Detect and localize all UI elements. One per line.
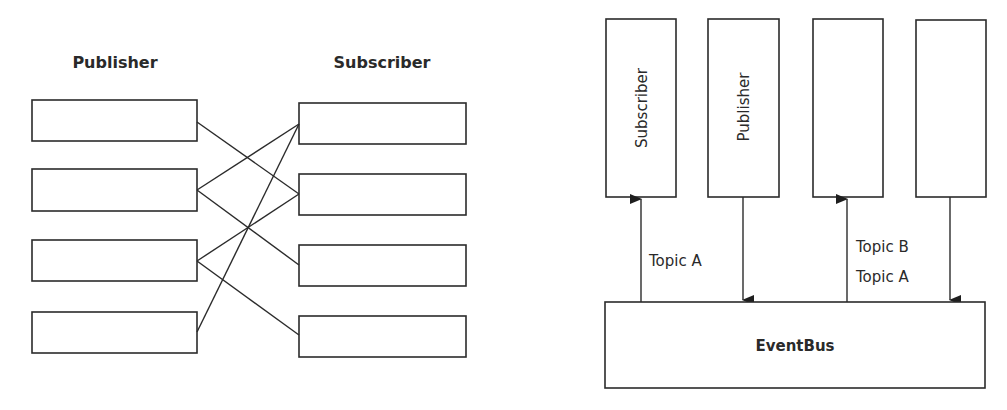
publisher-heading: Publisher [72,53,157,72]
publisher-column-label: Publisher [735,72,753,142]
publisher-box-1 [32,100,197,141]
publisher-box-2 [32,169,197,211]
topic-label-a: Topic A [648,252,702,270]
eventbus-label: EventBus [755,337,834,355]
right-diagram: Subscriber Publisher Topic A Topic B Top… [605,19,986,388]
topic-label-a-2: Topic A [855,268,909,286]
publisher-box-3 [32,240,197,281]
connection-p2-s1 [197,124,299,190]
subscriber-heading: Subscriber [334,53,431,72]
subscriber-box-3 [299,245,466,286]
left-diagram: Publisher Subscriber [32,53,466,357]
connection-p4-s1 [197,124,299,332]
component-column-4 [916,20,986,197]
publisher-box-4 [32,312,197,353]
connection-p3-s4 [197,261,299,335]
topic-label-b: Topic B [855,238,909,256]
subscriber-column-label: Subscriber [633,67,651,148]
subscriber-box-1 [299,103,466,144]
subscriber-box-4 [299,316,466,357]
component-column-3 [813,19,883,197]
connection-p1-s2 [197,122,299,194]
diagram-canvas: Publisher Subscriber Subscriber Publishe… [0,0,1007,410]
subscriber-box-2 [299,174,466,215]
